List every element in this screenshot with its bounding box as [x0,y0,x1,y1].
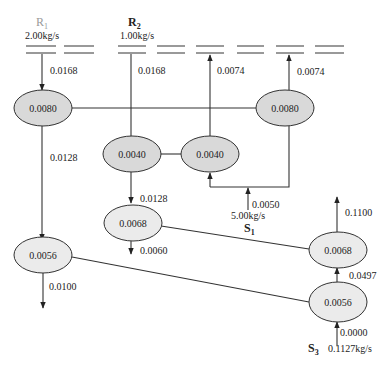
node-n7: 0.0068 [309,232,367,268]
svg-text:0.0068: 0.0068 [324,245,352,256]
edge-label-n1-n6: 0.0128 [50,152,78,163]
edge-label-n6-out: 0.0100 [49,281,77,292]
flow-network-diagram: R1 2.00kg/s R2 1.00kg/s 0.0168 0.0168 0.… [0,0,389,371]
svg-text:0.0056: 0.0056 [29,250,57,261]
svg-text:0.0056: 0.0056 [324,297,352,308]
s3-flow: 0.1127kg/s [328,343,372,354]
edge-label-r2-n3: 0.0168 [138,65,166,76]
source-r2: R2 1.00kg/s [120,15,154,41]
svg-text:0.0080: 0.0080 [271,103,299,114]
node-n4: 0.0040 [181,136,239,172]
node-n5: 0.0068 [104,205,162,241]
s3-label: S3 [308,341,319,357]
edge-label-s3: 0.0000 [340,327,368,338]
node-n1: 0.0080 [14,90,72,126]
header-pipeline [26,46,344,53]
node-n8: 0.0056 [309,282,367,322]
edge-label-n3-n5: 0.0128 [140,193,168,204]
svg-text:0.0080: 0.0080 [29,103,57,114]
edge-label-n5-out: 0.0060 [140,245,168,256]
edge-label-n7-out: 0.1100 [345,207,372,218]
edge-label-n4-header: 0.0074 [217,65,245,76]
r1-flow: 2.00kg/s [25,30,59,41]
edge-label-s1: 0.0050 [252,199,280,210]
s1-flow: 5.00kg/s [231,210,265,221]
node-n6: 0.0056 [14,237,72,273]
edge-label-n8-n7: 0.0497 [349,270,377,281]
r2-flow: 1.00kg/s [120,30,154,41]
r2-label: R2 [128,15,141,31]
source-s1: 5.00kg/s S1 [231,210,265,237]
node-n3: 0.0040 [103,136,161,172]
edge-label-r1-n1: 0.0168 [50,65,78,76]
svg-text:0.0040: 0.0040 [118,149,146,160]
source-s3: S3 0.1127kg/s [308,341,372,357]
r1-label: R1 [36,15,48,31]
source-r1: R1 2.00kg/s [25,15,59,41]
svg-text:0.0040: 0.0040 [196,149,224,160]
s1-label: S1 [244,221,255,237]
svg-text:0.0068: 0.0068 [119,218,147,229]
node-n2: 0.0080 [256,90,314,126]
edge-label-n2-header: 0.0074 [297,66,325,77]
